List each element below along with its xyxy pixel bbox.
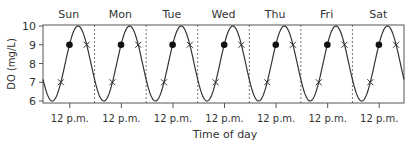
y-axis: 678910 bbox=[22, 20, 43, 108]
x-tick-label: 12 p.m. bbox=[257, 113, 295, 124]
dot-marker bbox=[272, 41, 279, 48]
day-label-mon: Mon bbox=[109, 8, 132, 21]
do-line bbox=[43, 26, 404, 101]
y-tick-label: 6 bbox=[29, 95, 36, 108]
y-tick-label: 9 bbox=[29, 39, 36, 52]
plot-border bbox=[43, 25, 404, 103]
dot-marker bbox=[66, 41, 73, 48]
y-tick-label: 8 bbox=[29, 58, 36, 71]
day-label-sat: Sat bbox=[369, 8, 388, 21]
dot-marker bbox=[118, 41, 125, 48]
dot-marker bbox=[324, 41, 331, 48]
y-tick-label: 10 bbox=[22, 20, 36, 33]
dot-marker bbox=[221, 41, 228, 48]
data-markers bbox=[58, 41, 399, 85]
dot-marker bbox=[169, 41, 176, 48]
x-tick-label: 12 p.m. bbox=[51, 113, 89, 124]
x-axis-title: Time of day bbox=[192, 128, 258, 141]
y-tick-label: 7 bbox=[29, 76, 36, 89]
dissolved-oxygen-chart: 678910 12 p.m.12 p.m.12 p.m.12 p.m.12 p.… bbox=[0, 0, 414, 148]
day-dividers bbox=[95, 25, 353, 103]
day-labels: SunMonTueWedThuFriSat bbox=[58, 8, 388, 21]
dot-marker bbox=[376, 41, 383, 48]
x-tick-label: 12 p.m. bbox=[360, 113, 398, 124]
x-tick-label: 12 p.m. bbox=[205, 113, 243, 124]
x-tick-label: 12 p.m. bbox=[154, 113, 192, 124]
y-axis-title: DO (mg/L) bbox=[6, 38, 17, 90]
x-tick-label: 12 p.m. bbox=[308, 113, 346, 124]
x-axis: 12 p.m.12 p.m.12 p.m.12 p.m.12 p.m.12 p.… bbox=[51, 103, 399, 124]
plot-frame bbox=[43, 25, 404, 103]
do-curve bbox=[43, 26, 404, 101]
x-tick-label: 12 p.m. bbox=[102, 113, 140, 124]
day-label-thu: Thu bbox=[264, 8, 286, 21]
day-label-sun: Sun bbox=[58, 8, 79, 21]
day-label-tue: Tue bbox=[162, 8, 182, 21]
day-label-wed: Wed bbox=[212, 8, 236, 21]
day-label-fri: Fri bbox=[320, 8, 333, 21]
